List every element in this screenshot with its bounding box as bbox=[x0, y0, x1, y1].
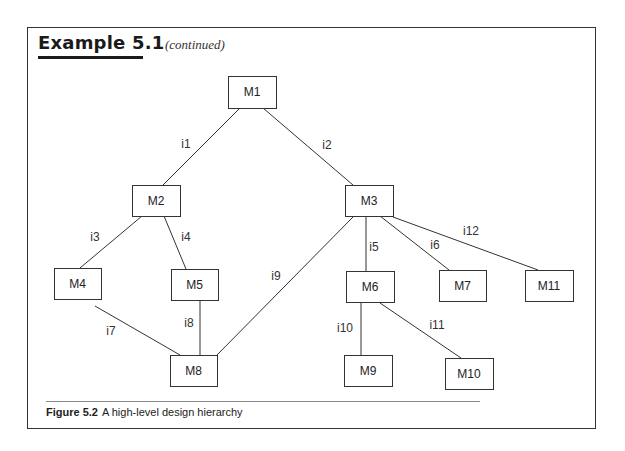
node-m8: M8 bbox=[171, 356, 218, 387]
design-hierarchy-diagram: i1i2i3i4i5i6i12i7i8i9i10i11M1M2M3M4M5M6M… bbox=[0, 0, 625, 451]
edge-line bbox=[80, 216, 142, 268]
edge-label: i5 bbox=[369, 240, 379, 254]
edge-label: i1 bbox=[181, 137, 191, 151]
edge-i10: i10 bbox=[337, 302, 361, 355]
node-label: M10 bbox=[457, 367, 481, 381]
edge-label: i2 bbox=[322, 138, 332, 152]
node-label: M7 bbox=[454, 279, 471, 293]
node-m5: M5 bbox=[172, 270, 219, 301]
edge-i3: i3 bbox=[80, 216, 142, 268]
edge-i11: i11 bbox=[380, 303, 461, 358]
caption-divider bbox=[46, 401, 480, 402]
node-label: M3 bbox=[361, 194, 378, 208]
node-m6: M6 bbox=[347, 272, 395, 303]
node-m3: M3 bbox=[346, 186, 394, 217]
node-label: M11 bbox=[538, 279, 561, 293]
figure-label: Figure 5.2 bbox=[46, 406, 98, 418]
node-label: M4 bbox=[69, 277, 86, 291]
edge-label: i11 bbox=[429, 318, 444, 332]
node-label: M9 bbox=[360, 364, 377, 378]
edge-i5: i5 bbox=[366, 216, 379, 271]
node-m1: M1 bbox=[229, 77, 277, 109]
edge-label: i8 bbox=[184, 316, 194, 330]
edge-i8: i8 bbox=[184, 300, 200, 355]
node-m11: M11 bbox=[526, 271, 574, 302]
edge-label: i9 bbox=[271, 269, 281, 283]
node-label: M5 bbox=[186, 278, 203, 292]
edge-label: i12 bbox=[463, 224, 479, 238]
node-m9: M9 bbox=[345, 356, 393, 387]
figure-caption-text: A high-level design hierarchy bbox=[102, 406, 243, 418]
edge-i2: i2 bbox=[263, 108, 353, 185]
edge-i6: i6 bbox=[380, 216, 449, 270]
edge-line bbox=[380, 303, 461, 358]
edge-label: i4 bbox=[181, 230, 191, 244]
node-label: M1 bbox=[244, 85, 261, 99]
edge-i4: i4 bbox=[164, 216, 191, 269]
edge-label: i3 bbox=[90, 230, 100, 244]
edge-label: i6 bbox=[430, 238, 440, 252]
node-label: M6 bbox=[362, 280, 379, 294]
edge-i7: i7 bbox=[95, 306, 180, 355]
edge-line bbox=[217, 217, 353, 355]
figure-caption: Figure 5.2A high-level design hierarchy bbox=[46, 406, 243, 418]
node-m7: M7 bbox=[440, 271, 487, 302]
edge-line bbox=[263, 108, 353, 185]
node-m10: M10 bbox=[446, 359, 494, 390]
node-label: M2 bbox=[148, 194, 165, 208]
edge-i1: i1 bbox=[163, 108, 240, 185]
node-m2: M2 bbox=[133, 186, 181, 217]
edge-i9: i9 bbox=[217, 217, 353, 355]
node-label: M8 bbox=[185, 364, 202, 378]
edge-line bbox=[163, 108, 240, 185]
edge-label: i7 bbox=[106, 324, 116, 338]
node-m4: M4 bbox=[55, 269, 102, 300]
edge-label: i10 bbox=[337, 321, 353, 335]
